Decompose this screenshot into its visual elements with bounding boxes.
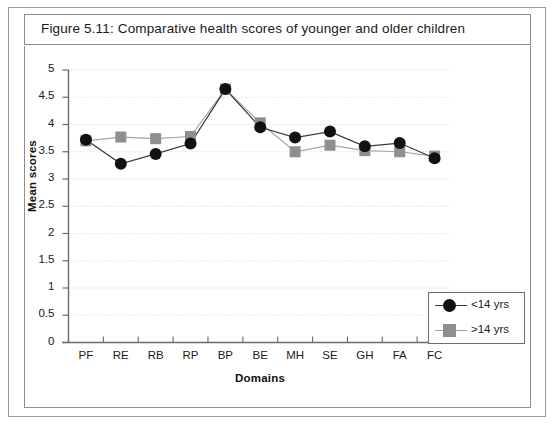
y-axis-tick-label: 4.5 — [21, 89, 55, 101]
figure-title-box: Figure 5.11: Comparative health scores o… — [24, 14, 531, 45]
x-axis-title: Domains — [60, 372, 460, 384]
legend-item-old: >14 yrs — [429, 318, 526, 344]
y-axis-tick-label: 0 — [21, 335, 55, 347]
chart-legend: <14 yrs >14 yrs — [428, 292, 525, 344]
figure-title: Figure 5.11: Comparative health scores o… — [41, 21, 465, 36]
square-marker-icon — [443, 324, 456, 337]
y-axis-tick-label: 2.5 — [21, 198, 55, 210]
y-axis-tick-label: 1.5 — [21, 253, 55, 265]
legend-label-young: <14 yrs — [471, 298, 509, 310]
y-axis-tick-label: 2 — [21, 226, 55, 238]
y-axis-tick-label: 1 — [21, 280, 55, 292]
legend-label-old: >14 yrs — [471, 323, 509, 335]
x-axis-tick-label: FC — [415, 349, 455, 361]
y-axis-tick-label: 5 — [21, 62, 55, 74]
y-axis-tick-label: 4 — [21, 117, 55, 129]
y-axis-tick-label: 3 — [21, 171, 55, 183]
circle-marker-icon — [443, 299, 456, 312]
y-axis-tick-label: 0.5 — [21, 307, 55, 319]
y-axis-tick-label: 3.5 — [21, 144, 55, 156]
figure-container: Figure 5.11: Comparative health scores o… — [0, 0, 555, 425]
legend-item-young: <14 yrs — [429, 293, 526, 319]
